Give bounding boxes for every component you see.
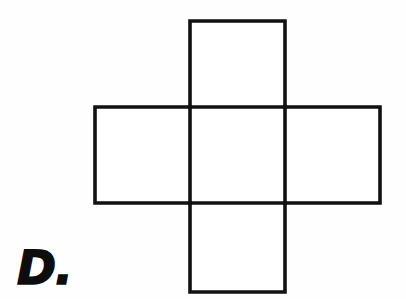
square-cells-group	[95, 21, 380, 292]
center-square	[190, 107, 285, 203]
top-square	[190, 21, 285, 107]
bottom-square	[190, 203, 285, 292]
option-label-d: D.	[17, 240, 97, 298]
page-root: D.	[0, 0, 406, 299]
left-square	[95, 107, 190, 203]
right-square	[285, 107, 380, 203]
